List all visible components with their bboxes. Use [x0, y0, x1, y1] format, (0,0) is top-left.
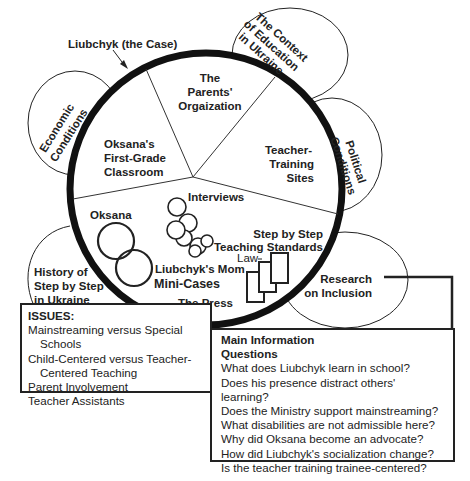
- issue-line: Mainstreaming versus Special: [28, 323, 204, 337]
- svg-text:The: The: [200, 72, 220, 84]
- issue-line: Centered Teaching: [28, 366, 204, 380]
- question-item: Why did Oksana become an advocate?: [221, 432, 444, 446]
- svg-text:History of: History of: [34, 266, 88, 278]
- issue-item: Child-Centered versus Teacher- Centered …: [28, 352, 204, 380]
- question-item: What disabilities are not admissible her…: [221, 418, 444, 432]
- case-label: Liubchyk (the Case): [68, 38, 177, 50]
- issue-item: Parent Involvement: [28, 380, 204, 394]
- svg-text:Oksana's: Oksana's: [104, 138, 155, 150]
- questions-title: Main Information: [221, 333, 444, 347]
- history-step-by-step-label: History of Step by Step in Ukraine: [34, 266, 104, 306]
- questions-title-2: Questions: [221, 347, 444, 361]
- svg-text:Sites: Sites: [287, 172, 315, 184]
- svg-text:Training: Training: [269, 158, 314, 170]
- svg-text:Classroom: Classroom: [104, 166, 163, 178]
- svg-text:First-Grade: First-Grade: [104, 152, 166, 164]
- question-item: What does Liubchyk learn in school?: [221, 361, 444, 375]
- issue-item: Mainstreaming versus Special Schools: [28, 323, 204, 351]
- svg-text:Teacher-: Teacher-: [265, 144, 312, 156]
- research-connector-line: [384, 277, 452, 330]
- issues-title: ISSUES:: [28, 309, 204, 323]
- issue-item: Teacher Assistants: [28, 394, 204, 408]
- teaching-standards-label: Teaching Standards: [214, 241, 323, 253]
- issues-box: ISSUES: Mainstreaming versus Special Sch…: [20, 303, 212, 393]
- question-item: How did Liubchyk's socialization change?: [221, 447, 444, 461]
- question-item: Is the teacher training trainee-centered…: [221, 461, 444, 475]
- svg-text:Research: Research: [320, 273, 372, 285]
- svg-text:Parents': Parents': [188, 86, 233, 98]
- mini-cases-label: Mini-Cases: [154, 277, 220, 291]
- issue-line: Child-Centered versus Teacher-: [28, 352, 204, 366]
- svg-text:Orgaization: Orgaization: [178, 100, 241, 112]
- liubchyks-mom-label: Liubchyk's Mom: [155, 263, 245, 275]
- interviews-label: Interviews: [188, 191, 244, 203]
- question-item: Does his presence distract others' learn…: [221, 376, 444, 404]
- research-on-inclusion-label: Research on Inclusion: [304, 273, 372, 299]
- law-label: Law: [237, 252, 259, 264]
- main-questions-box: Main Information Questions What does Liu…: [210, 328, 455, 462]
- step-by-step-label: Step by Step: [253, 228, 323, 240]
- oksana-label: Oksana: [90, 209, 132, 221]
- question-item: Does the Ministry support mainstreaming?: [221, 404, 444, 418]
- issue-line: Schools: [28, 337, 204, 351]
- svg-text:Step by Step: Step by Step: [34, 280, 104, 292]
- svg-text:on Inclusion: on Inclusion: [304, 287, 372, 299]
